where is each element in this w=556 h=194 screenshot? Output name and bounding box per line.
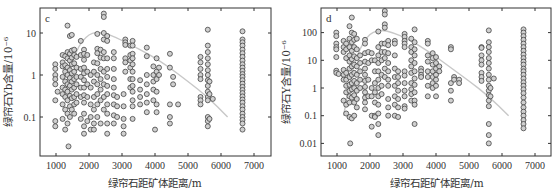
data-point [60, 116, 65, 121]
data-point [138, 78, 143, 83]
data-point [121, 131, 126, 136]
data-point [412, 69, 417, 74]
panel-label: d [326, 12, 332, 24]
data-point [521, 126, 526, 131]
data-point [144, 73, 149, 78]
data-point [486, 133, 491, 138]
data-point [402, 73, 407, 78]
data-point [210, 96, 215, 101]
data-point [386, 83, 391, 88]
data-point [72, 47, 77, 52]
data-point [130, 77, 135, 82]
data-point [205, 73, 210, 78]
data-point [412, 27, 417, 32]
data-point [82, 111, 87, 116]
data-point [144, 45, 149, 50]
data-point [486, 56, 491, 61]
data-point [69, 32, 74, 37]
data-point [105, 102, 110, 107]
chart-panel-c: 1000200030004000500060007000 0.1110 c 绿帘… [0, 0, 278, 194]
data-point [486, 104, 491, 109]
data-point [130, 62, 135, 67]
data-point [363, 107, 368, 112]
data-point [105, 74, 110, 79]
data-point [412, 61, 417, 66]
data-point [207, 79, 212, 84]
data-point [55, 89, 60, 94]
data-point [521, 100, 526, 105]
data-point [198, 77, 203, 82]
data-point [336, 72, 341, 77]
data-point [60, 74, 65, 79]
data-point [386, 51, 391, 56]
data-point [205, 68, 210, 73]
data-point [130, 43, 135, 48]
data-point [334, 55, 339, 60]
data-point [412, 82, 417, 87]
data-point [363, 84, 368, 89]
data-point [95, 82, 100, 87]
data-point [412, 40, 417, 45]
data-point [396, 69, 401, 74]
x-tick-label: 2000 [79, 160, 99, 171]
data-point [412, 122, 417, 127]
data-point [379, 92, 384, 97]
data-point [412, 53, 417, 58]
data-point [205, 98, 210, 103]
data-point [98, 121, 103, 126]
data-point [376, 111, 381, 116]
data-point [386, 97, 391, 102]
data-point [486, 77, 491, 82]
data-point [98, 87, 103, 92]
data-point [53, 82, 58, 87]
x-axis-title: 绿帘石距矿体距离/m [108, 177, 202, 189]
data-point [205, 62, 210, 67]
data-point [157, 73, 162, 78]
data-point [348, 141, 353, 146]
data-point [354, 97, 359, 102]
data-point [358, 86, 363, 91]
data-point [448, 47, 453, 52]
data-point [121, 104, 126, 109]
panel-label: c [45, 12, 50, 24]
data-point [138, 102, 143, 107]
data-point [354, 47, 359, 52]
data-point [386, 61, 391, 66]
data-point [111, 77, 116, 82]
data-point [123, 60, 128, 65]
data-point [392, 53, 397, 58]
data-point [53, 66, 58, 71]
x-tick-label: 6000 [492, 160, 512, 171]
data-point [78, 116, 83, 121]
data-point [358, 77, 363, 82]
data-point [363, 66, 368, 71]
data-point [78, 38, 83, 43]
x-tick-label: 2000 [360, 160, 380, 171]
data-point [369, 124, 374, 129]
data-point [486, 28, 491, 33]
data-point [63, 127, 68, 132]
data-point [53, 124, 58, 129]
data-point [111, 85, 116, 90]
data-point [486, 66, 491, 71]
data-point [352, 31, 357, 36]
data-point [101, 15, 106, 20]
y-tick-label: 10 [307, 55, 317, 66]
data-point [358, 61, 363, 66]
data-point [425, 41, 430, 46]
data-point [91, 127, 96, 132]
data-point [91, 121, 96, 126]
data-point [105, 131, 110, 136]
data-point [105, 121, 110, 126]
x-tick-label: 4000 [145, 160, 165, 171]
data-point [479, 53, 484, 58]
chart-panel-d: 1000200030004000500060007000 0.010.11101… [278, 0, 556, 194]
x-axis-title: 绿帘石距矿体距离/m [390, 177, 484, 189]
data-point [347, 100, 352, 105]
data-point [386, 69, 391, 74]
data-point [354, 105, 359, 110]
data-point [207, 92, 212, 97]
data-point [425, 53, 430, 58]
data-point [154, 110, 159, 115]
data-point [396, 81, 401, 86]
